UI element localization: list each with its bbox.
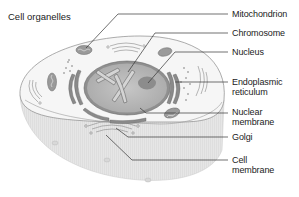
- mitochondrion-top: [76, 46, 92, 55]
- label-golgi: Golgi: [232, 132, 253, 142]
- mitochondrion-left: [48, 73, 57, 91]
- label-nuclear-membrane: Nuclear membrane: [232, 107, 274, 127]
- nucleolus: [138, 77, 156, 90]
- label-cell-membrane: Cell membrane: [232, 155, 274, 175]
- diagram-title: Cell organelles: [8, 11, 71, 22]
- label-endoplasmic-reticulum: Endoplasmic reticulum: [232, 77, 285, 97]
- cell-diagram: Cell organelles Mitochondrion Chromosome…: [0, 0, 299, 197]
- label-chromosome: Chromosome: [232, 28, 285, 38]
- label-nucleus: Nucleus: [232, 47, 264, 57]
- label-mitochondrion: Mitochondrion: [232, 9, 287, 19]
- nucleus: [84, 61, 170, 115]
- cell-illustration: Cell organelles Mitochondrion Chromosome…: [0, 0, 299, 197]
